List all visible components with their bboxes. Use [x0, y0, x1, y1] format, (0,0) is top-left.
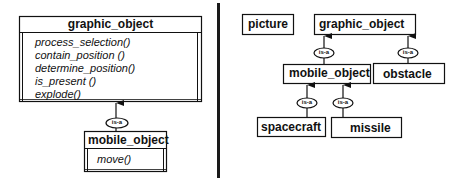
method-label: determine_position(): [35, 62, 135, 75]
is-a-label: is-a: [314, 48, 334, 57]
node-label-picture: picture: [248, 17, 288, 31]
is-a-label: is-a: [398, 48, 418, 57]
method-label: is_present (): [35, 75, 96, 88]
method-label: explode(): [35, 88, 81, 101]
method-label: process_selection(): [35, 36, 130, 49]
is-a-label: is-a: [297, 98, 317, 107]
node-label-missile: missile: [350, 121, 391, 135]
panel-divider: [217, 3, 220, 178]
node-label-spacecraft: spacecraft: [261, 120, 321, 134]
class-name-mobile-object: mobile_object: [88, 133, 169, 147]
is-a-label: is-a: [333, 98, 353, 107]
method-label: move(): [97, 153, 131, 166]
node-label-graphic-object: graphic_object: [319, 17, 404, 31]
node-label-obstacle: obstacle: [383, 67, 432, 81]
class-name-graphic-object: graphic_object: [19, 17, 202, 31]
node-label-mobile-object: mobile_object: [289, 66, 370, 80]
method-label: contain_position (): [35, 49, 125, 62]
is-a-label: is-a: [106, 118, 128, 127]
